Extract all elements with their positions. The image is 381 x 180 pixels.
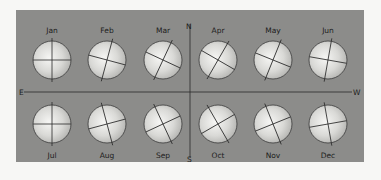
globe-apr: Apr bbox=[191, 26, 246, 89]
month-label: Jan bbox=[45, 26, 58, 35]
month-label: Nov bbox=[266, 151, 281, 160]
month-label: May bbox=[265, 26, 281, 35]
monthly-globe-diagram: N S E W JanFebMarAprMayJunJulAugSepOctNo… bbox=[0, 0, 381, 180]
month-label: Feb bbox=[100, 26, 114, 35]
month-label: Jul bbox=[46, 151, 56, 160]
west-label: W bbox=[353, 88, 361, 97]
globes-group: JanFebMarAprMayJunJulAugSepOctNovDec bbox=[33, 26, 351, 160]
month-label: Dec bbox=[321, 151, 336, 160]
globe-may: May bbox=[247, 26, 299, 88]
globe-oct: Oct bbox=[191, 95, 246, 160]
globe-feb: Feb bbox=[83, 26, 131, 86]
globe-jul: Jul bbox=[33, 102, 71, 160]
month-label: Apr bbox=[212, 26, 226, 35]
globe-jan: Jan bbox=[33, 26, 71, 82]
globe-nov: Nov bbox=[247, 96, 299, 160]
month-label: Jun bbox=[321, 26, 334, 35]
globe-sep: Sep bbox=[136, 96, 189, 160]
east-label: E bbox=[19, 88, 24, 97]
globe-mar: Mar bbox=[136, 26, 189, 88]
month-label: Sep bbox=[156, 151, 170, 160]
south-label: S bbox=[187, 155, 192, 164]
globe-dec: Dec bbox=[305, 99, 350, 160]
north-label: N bbox=[186, 22, 192, 31]
globe-jun: Jun bbox=[305, 26, 350, 85]
month-label: Oct bbox=[212, 151, 225, 160]
month-label: Aug bbox=[100, 151, 115, 160]
globe-aug: Aug bbox=[83, 98, 131, 160]
month-label: Mar bbox=[156, 26, 171, 35]
